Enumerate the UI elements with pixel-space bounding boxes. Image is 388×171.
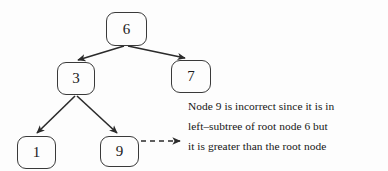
edge-left-to-one bbox=[37, 96, 75, 133]
annotation-line-2: left–subtree of root node 6 but bbox=[188, 116, 384, 136]
tree-node-right-child-label: 7 bbox=[187, 69, 195, 84]
edge-root-to-right bbox=[128, 46, 185, 58]
tree-node-root-label: 6 bbox=[123, 22, 131, 37]
tree-node-leaf-one-label: 1 bbox=[33, 145, 41, 160]
tree-node-left-child-label: 3 bbox=[72, 71, 80, 86]
tree-node-root[interactable]: 6 bbox=[106, 12, 147, 46]
edge-root-to-left bbox=[78, 46, 124, 60]
diagram-canvas: 6 3 7 1 9 Node 9 is incorrect since it i… bbox=[0, 0, 388, 171]
edge-left-to-nine bbox=[77, 96, 117, 133]
tree-node-leaf-nine-label: 9 bbox=[116, 144, 124, 159]
annotation-line-3: it is greater than the root node bbox=[188, 136, 384, 156]
annotation-text-block: Node 9 is incorrect since it is in left–… bbox=[188, 96, 384, 156]
tree-node-leaf-one[interactable]: 1 bbox=[17, 136, 56, 169]
tree-node-leaf-nine[interactable]: 9 bbox=[100, 136, 139, 167]
tree-node-left-child[interactable]: 3 bbox=[57, 62, 95, 95]
annotation-line-1: Node 9 is incorrect since it is in bbox=[188, 96, 384, 116]
tree-node-right-child[interactable]: 7 bbox=[171, 60, 211, 93]
